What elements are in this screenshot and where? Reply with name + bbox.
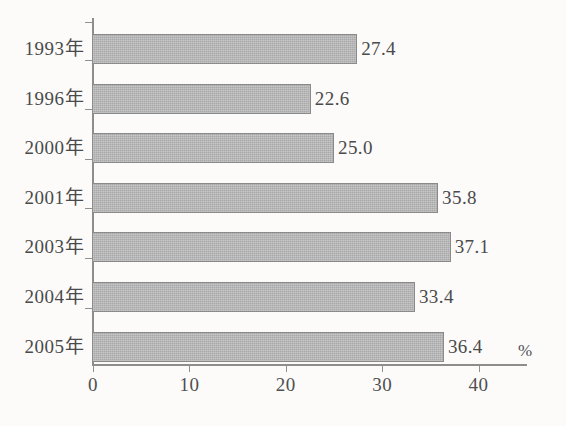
category-label: 2001年 — [0, 188, 84, 208]
bar — [93, 84, 311, 114]
value-axis-tick — [286, 366, 287, 372]
bar — [93, 232, 451, 262]
value-axis-tick — [479, 366, 480, 372]
category-label: 1993年 — [0, 39, 84, 59]
bar-value-label: 37.1 — [455, 237, 490, 257]
bar-value-label: 25.0 — [338, 138, 373, 158]
value-axis-tick-label: 20 — [256, 374, 316, 396]
category-axis-tick — [85, 22, 92, 23]
plot-area: 27.422.625.035.837.133.436.4 — [93, 18, 527, 365]
bar-value-label: 22.6 — [315, 89, 350, 109]
value-axis-tick-label: 0 — [63, 374, 123, 396]
bar — [93, 183, 438, 213]
category-label: 2000年 — [0, 138, 84, 158]
bar-value-label: 33.4 — [419, 287, 454, 307]
bar-value-label: 27.4 — [361, 39, 396, 59]
category-label: 2003年 — [0, 237, 84, 257]
category-axis-tick — [85, 159, 92, 160]
bar-value-label: 36.4 — [448, 337, 483, 357]
bar-chart: 27.422.625.035.837.133.436.4 1993年1996年2… — [0, 0, 566, 426]
bar — [93, 133, 334, 163]
value-axis-tick — [382, 366, 383, 372]
category-axis-tick — [85, 208, 92, 209]
value-axis-tick-label: 10 — [159, 374, 219, 396]
value-axis-tick-label: 30 — [352, 374, 412, 396]
bar-value-label: 35.8 — [442, 188, 477, 208]
bar — [93, 34, 357, 64]
category-axis-tick — [85, 258, 92, 259]
category-axis-tick — [85, 60, 92, 61]
value-axis-tick — [93, 366, 94, 372]
category-label: 1996年 — [0, 89, 84, 109]
category-axis-tick — [85, 308, 92, 309]
bar — [93, 282, 415, 312]
category-axis-tick — [85, 109, 92, 110]
unit-label: % — [518, 342, 532, 360]
value-axis-tick-label: 40 — [449, 374, 509, 396]
bar — [93, 332, 444, 362]
category-label: 2005年 — [0, 337, 84, 357]
category-label: 2004年 — [0, 287, 84, 307]
value-axis-tick — [189, 366, 190, 372]
